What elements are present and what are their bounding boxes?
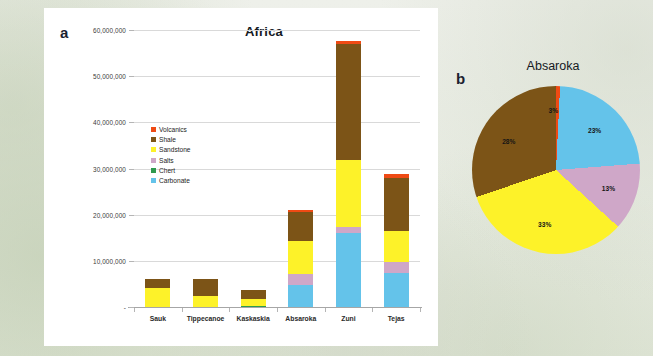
x-tick-mark [420, 308, 421, 312]
bar-segment-sandstone [241, 299, 266, 306]
pie-slice-label-shale: 28% [502, 137, 515, 144]
y-tick-mark [129, 261, 134, 262]
bar-segment-shale [193, 279, 218, 296]
legend-item-label: Sandstone [159, 146, 191, 153]
bar-segment-shale [384, 178, 409, 231]
legend-item: Salts [151, 157, 191, 164]
bar-segment-salts [288, 274, 313, 285]
legend-swatch-salts [151, 158, 156, 163]
y-tick-label: 60,000,000 [93, 27, 126, 34]
bar-segment-shale [145, 279, 170, 288]
y-tick-label: 10,000,000 [93, 257, 126, 264]
bar-segment-salts [384, 262, 409, 273]
x-tick-mark [277, 308, 278, 312]
x-axis-label: Zuni [341, 315, 355, 322]
panel-b-label: b [456, 70, 465, 87]
gridline [134, 261, 420, 262]
bar-segment-sandstone [384, 231, 409, 262]
legend-item-label: Salts [159, 157, 174, 164]
y-tick-mark [129, 122, 134, 123]
y-tick-mark [129, 30, 134, 31]
legend-item: Sandstone [151, 146, 191, 153]
x-tick-mark [134, 308, 135, 312]
bar-segment-shale [241, 290, 266, 299]
bar-segment-chert [241, 306, 266, 307]
x-axis-label: Sauk [150, 315, 166, 322]
x-axis-label: Kaskaskia [237, 315, 270, 322]
bar-zuni [336, 41, 361, 307]
bar-segment-shale [288, 212, 313, 241]
y-tick-label: 20,000,000 [93, 211, 126, 218]
pie-slice-label-carbonate: 23% [588, 127, 601, 134]
x-tick-mark [325, 308, 326, 312]
legend-item-label: Volcanics [159, 126, 187, 133]
bar-segment-shale [336, 44, 361, 160]
bar-tippecanoe [193, 279, 218, 307]
bar-segment-sandstone [145, 288, 170, 307]
legend-item-label: Shale [159, 136, 176, 143]
x-tick-mark [372, 308, 373, 312]
pie-slice-label-sandstone: 33% [538, 221, 551, 228]
pie-chart-title: Absaroka [478, 59, 628, 73]
bar-kaskaskia [241, 290, 266, 307]
bar-segment-sandstone [336, 160, 361, 227]
bar-sauk [145, 279, 170, 307]
bar-segment-sandstone [193, 296, 218, 307]
y-tick-mark [129, 215, 134, 216]
panel-a-bar-chart: a Africa -10,000,00020,000,00030,000,000… [44, 8, 438, 346]
x-tick-mark [229, 308, 230, 312]
y-tick-label: 40,000,000 [93, 119, 126, 126]
legend-item: Chert [151, 167, 191, 174]
bar-segment-carbonate [336, 233, 361, 307]
bar-segment-carbonate [384, 273, 409, 307]
legend-swatch-shale [151, 137, 156, 142]
bar-tejas [384, 174, 409, 307]
legend-item: Shale [151, 136, 191, 143]
x-tick-mark [182, 308, 183, 312]
bar-segment-carbonate [288, 285, 313, 307]
legend-item-label: Carbonate [159, 177, 190, 184]
y-tick-label: - [124, 304, 126, 311]
x-axis-label: Absaroka [285, 315, 316, 322]
bar-absaroka [288, 210, 313, 307]
x-axis-label: Tippecanoe [187, 315, 225, 322]
x-axis-line [128, 307, 422, 308]
legend-swatch-chert [151, 168, 156, 173]
pie-slice-label-volcanics: 3% [548, 106, 558, 113]
pie-slice-label-salts: 13% [602, 185, 615, 192]
legend-swatch-volcanics [151, 127, 156, 132]
legend-item: Carbonate [151, 177, 191, 184]
legend-swatch-carbonate [151, 178, 156, 183]
y-tick-mark [129, 169, 134, 170]
legend-swatch-sandstone [151, 147, 156, 152]
panel-b-pie-chart: b Absaroka 3%23%13%33%28% [438, 44, 650, 334]
gridline [134, 76, 420, 77]
bar-segment-sandstone [288, 241, 313, 274]
legend-item: Volcanics [151, 126, 191, 133]
bar-chart-legend: VolcanicsShaleSandstoneSaltsChertCarbona… [151, 126, 191, 184]
y-tick-mark [129, 76, 134, 77]
gridline [134, 215, 420, 216]
y-tick-label: 50,000,000 [93, 73, 126, 80]
legend-item-label: Chert [159, 167, 175, 174]
x-axis-label: Tejas [388, 315, 405, 322]
y-tick-label: 30,000,000 [93, 165, 126, 172]
gridline [134, 30, 420, 31]
gridline [134, 122, 420, 123]
